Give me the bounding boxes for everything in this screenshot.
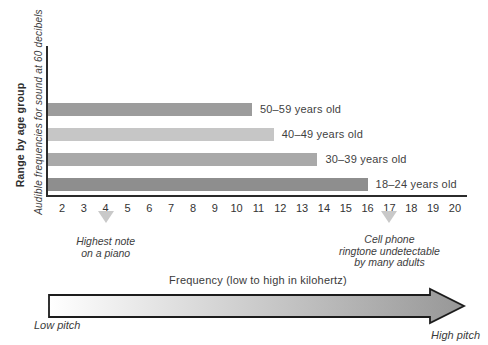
x-tick-label: 3 [72, 202, 96, 214]
x-tick-label: 14 [312, 202, 336, 214]
age-group-label: 18–24 years old [376, 178, 457, 190]
x-tick-label: 16 [356, 202, 380, 214]
x-tick-label: 5 [115, 202, 139, 214]
x-tick-label: 11 [246, 202, 270, 214]
annotation-line: Highest note [76, 236, 135, 248]
x-tick-label: 18 [399, 202, 423, 214]
arrow-shape [49, 289, 464, 323]
pitch-gradient-arrow [45, 287, 467, 325]
y-axis-title: Range by age group [14, 83, 26, 188]
x-axis-title: Frequency (low to high in kilohertz) [169, 274, 347, 286]
low-pitch-label: Low pitch [34, 319, 80, 331]
x-tick-label: 13 [290, 202, 314, 214]
x-tick-label: 8 [181, 202, 205, 214]
x-tick-label: 7 [159, 202, 183, 214]
x-tick-label: 15 [334, 202, 358, 214]
marker-annotation: Highest noteon a piano [76, 236, 135, 259]
age-group-bar [48, 103, 252, 116]
marker-triangle-icon [381, 211, 397, 223]
age-group-label: 40–49 years old [282, 128, 363, 140]
x-tick-label: 6 [137, 202, 161, 214]
annotation-line: on a piano [76, 248, 135, 260]
age-group-label: 50–59 years old [260, 103, 341, 115]
age-group-label: 30–39 years old [325, 153, 406, 165]
x-tick-label: 10 [225, 202, 249, 214]
y-axis-subtitle: Audible frequencies for sound at 60 deci… [33, 9, 44, 215]
y-axis-line [46, 46, 48, 197]
age-group-bar [48, 153, 317, 166]
marker-triangle-icon [98, 211, 114, 223]
high-pitch-label: High pitch [431, 329, 480, 341]
marker-annotation: Cell phoneringtone undetectableby many a… [339, 234, 440, 269]
audible-frequency-chart: Range by age group Audible frequencies f… [0, 0, 488, 345]
x-axis-line [46, 195, 467, 197]
x-tick-label: 9 [203, 202, 227, 214]
x-tick-label: 12 [268, 202, 292, 214]
x-tick-label: 19 [421, 202, 445, 214]
x-tick-label: 2 [50, 202, 74, 214]
annotation-line: by many adults [339, 257, 440, 269]
age-group-bar [48, 178, 368, 191]
x-tick-label: 20 [443, 202, 467, 214]
annotation-line: Cell phone [339, 234, 440, 246]
age-group-bar [48, 128, 274, 141]
